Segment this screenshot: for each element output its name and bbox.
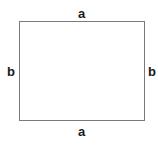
side-label-right: b	[148, 65, 156, 78]
side-label-bottom: a	[78, 125, 85, 138]
side-label-left: b	[7, 65, 15, 78]
rectangle	[19, 21, 145, 121]
side-label-top: a	[78, 7, 85, 20]
